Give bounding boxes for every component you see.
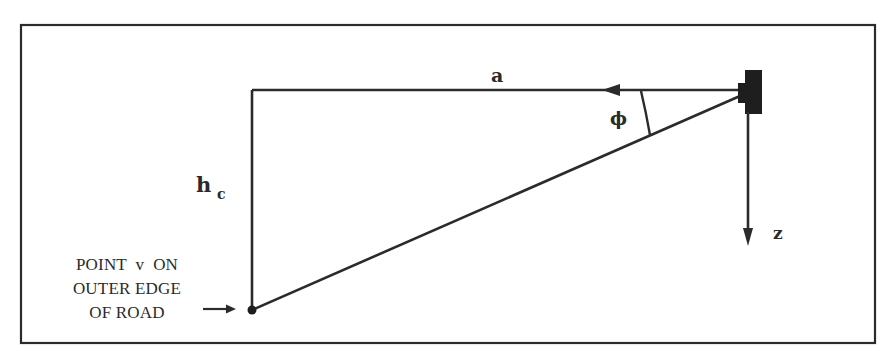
angle-arc <box>641 91 650 135</box>
arrow-right-icon <box>226 305 236 314</box>
caption-line-2: OUTER EDGE <box>52 277 202 301</box>
point-v-caption: POINT v ON OUTER EDGE OF ROAD <box>52 253 202 325</box>
label-phi: ϕ <box>610 108 627 129</box>
label-z: z <box>773 223 783 243</box>
label-h-subscript: c <box>217 186 226 202</box>
arrow-left-icon <box>602 84 620 96</box>
line-of-sight <box>252 96 740 310</box>
point-v-dot <box>248 306 257 315</box>
label-h: h <box>196 172 211 197</box>
label-a: a <box>491 64 503 86</box>
sensor-mount-icon <box>738 83 748 103</box>
arrow-down-icon <box>743 228 753 246</box>
caption-line-1: POINT v ON <box>52 253 202 277</box>
caption-line-3: OF ROAD <box>52 301 202 325</box>
